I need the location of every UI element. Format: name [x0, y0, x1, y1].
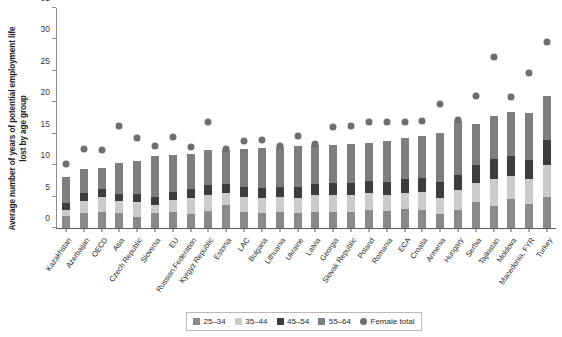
female-total-marker[interactable]	[134, 135, 141, 142]
stacked-bar[interactable]	[276, 147, 284, 228]
female-total-marker[interactable]	[258, 137, 265, 144]
legend-item[interactable]: 25–34	[193, 317, 226, 326]
x-axis-tick-label: LAC	[236, 236, 252, 253]
female-total-marker[interactable]	[80, 145, 87, 152]
female-total-marker[interactable]	[187, 143, 194, 150]
stacked-bar[interactable]	[347, 144, 355, 228]
female-total-marker[interactable]	[312, 141, 319, 148]
stacked-bar[interactable]	[418, 136, 426, 228]
bar-segment-55-64	[187, 154, 195, 189]
stacked-bar[interactable]	[151, 156, 159, 228]
stacked-bar[interactable]	[187, 154, 195, 228]
female-total-marker[interactable]	[152, 142, 159, 149]
stacked-bar[interactable]	[294, 146, 302, 228]
stacked-bar[interactable]	[133, 161, 141, 228]
female-total-marker[interactable]	[294, 132, 301, 139]
female-total-marker[interactable]	[276, 142, 283, 149]
stacked-bar[interactable]	[80, 169, 88, 228]
bar-segment-45-54	[80, 193, 88, 201]
bar-group[interactable]: Czech Republic	[128, 8, 146, 228]
bar-group[interactable]: OECD	[93, 8, 111, 228]
bar-group[interactable]: Russian Federation	[182, 8, 200, 228]
bar-group[interactable]: Kazakhstan	[57, 8, 75, 228]
female-total-marker[interactable]	[98, 147, 105, 154]
bar-group[interactable]: Armenia	[431, 8, 449, 228]
bar-segment-45-54	[347, 183, 355, 195]
bar-segment-55-64	[347, 144, 355, 184]
stacked-bar[interactable]	[204, 150, 212, 228]
stacked-bar[interactable]	[436, 133, 444, 228]
stacked-bar[interactable]	[169, 155, 177, 229]
stacked-bar[interactable]	[240, 149, 248, 228]
female-total-marker[interactable]	[437, 100, 444, 107]
bar-group[interactable]: Slovak Republic	[342, 8, 360, 228]
bar-segment-45-54	[311, 184, 319, 195]
bar-group[interactable]: Asia	[110, 8, 128, 228]
bar-group[interactable]: Ukraine	[289, 8, 307, 228]
bar-group[interactable]: Azerbaijan	[75, 8, 93, 228]
stacked-bar[interactable]	[401, 138, 409, 228]
female-total-marker[interactable]	[169, 133, 176, 140]
bar-group[interactable]: Serbia	[467, 8, 485, 228]
female-total-marker[interactable]	[116, 122, 123, 129]
stacked-bar[interactable]	[222, 150, 230, 228]
female-total-marker[interactable]	[205, 119, 212, 126]
stacked-bar[interactable]	[258, 148, 266, 228]
bar-group[interactable]: Hungary	[449, 8, 467, 228]
bar-group[interactable]: EU	[164, 8, 182, 228]
y-axis-tick	[52, 70, 56, 71]
stacked-bar[interactable]	[311, 145, 319, 228]
female-total-marker[interactable]	[419, 118, 426, 125]
female-total-marker[interactable]	[348, 123, 355, 130]
y-axis-tick	[52, 133, 56, 134]
stacked-bar[interactable]	[525, 113, 533, 228]
female-total-marker[interactable]	[454, 116, 461, 123]
stacked-bar[interactable]	[490, 116, 498, 228]
legend-item[interactable]: Female total	[360, 317, 415, 326]
x-axis-line	[56, 228, 556, 229]
stacked-bar[interactable]	[98, 168, 106, 228]
female-total-marker[interactable]	[383, 118, 390, 125]
female-total-marker[interactable]	[544, 38, 551, 45]
bar-group[interactable]: Georgia	[324, 8, 342, 228]
stacked-bar[interactable]	[507, 112, 515, 228]
bar-group[interactable]: Slovenia	[146, 8, 164, 228]
bar-group[interactable]: Kyrgyz Republic	[200, 8, 218, 228]
female-total-marker[interactable]	[365, 119, 372, 126]
legend-item[interactable]: 55–64	[318, 317, 351, 326]
x-axis-tick	[333, 228, 334, 232]
bar-group[interactable]: LAC	[235, 8, 253, 228]
female-total-marker[interactable]	[490, 54, 497, 61]
bar-group[interactable]: Turkey	[538, 8, 556, 228]
female-total-marker[interactable]	[401, 118, 408, 125]
stacked-bar[interactable]	[472, 124, 480, 228]
bar-group[interactable]: Tajikistan	[485, 8, 503, 228]
legend-item[interactable]: 45–54	[277, 317, 310, 326]
stacked-bar[interactable]	[329, 145, 337, 228]
bar-group[interactable]: Lithuania	[271, 8, 289, 228]
stacked-bar[interactable]	[115, 163, 123, 228]
bar-group[interactable]: ECA	[396, 8, 414, 228]
female-total-marker[interactable]	[526, 70, 533, 77]
legend-item[interactable]: 35–44	[235, 317, 268, 326]
bar-group[interactable]: Poland	[360, 8, 378, 228]
bar-group[interactable]: Estonia	[217, 8, 235, 228]
female-total-marker[interactable]	[223, 146, 230, 153]
stacked-bar[interactable]	[383, 141, 391, 228]
stacked-bar[interactable]	[62, 177, 70, 228]
y-axis-tick	[52, 38, 56, 39]
bar-group[interactable]: Latvia	[307, 8, 325, 228]
bar-group[interactable]: Croatia	[413, 8, 431, 228]
bar-group[interactable]: Romania	[378, 8, 396, 228]
female-total-marker[interactable]	[241, 138, 248, 145]
female-total-marker[interactable]	[330, 124, 337, 131]
bar-group[interactable]: Macedonia, FYR	[520, 8, 538, 228]
bar-group[interactable]: Moldova	[503, 8, 521, 228]
stacked-bar[interactable]	[543, 96, 551, 228]
bar-group[interactable]: Bulgaria	[253, 8, 271, 228]
stacked-bar[interactable]	[365, 143, 373, 228]
female-total-marker[interactable]	[472, 93, 479, 100]
female-total-marker[interactable]	[62, 160, 69, 167]
stacked-bar[interactable]	[454, 121, 462, 228]
female-total-marker[interactable]	[508, 93, 515, 100]
